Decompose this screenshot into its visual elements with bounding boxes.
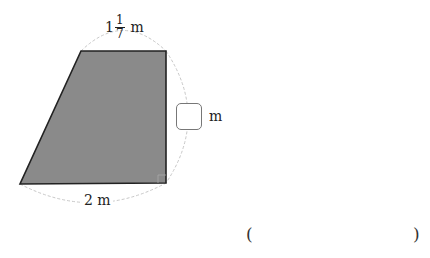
fraction-denominator: 7 [116,28,124,41]
top-length-unit: m [131,20,144,34]
trapezoid-figure: 1 1 7 m 2 m m ( ) [0,0,430,258]
bottom-length-label: 2 m [82,193,113,207]
trapezoid-shape [20,51,166,184]
answer-close-paren: ) [413,226,420,243]
answer-field[interactable] [256,224,406,244]
trapezoid-diagram-svg [0,0,430,258]
fraction-numerator: 1 [115,14,125,28]
top-length-whole: 1 [105,20,114,34]
height-answer-box[interactable] [176,103,202,130]
answer-open-paren: ( [246,226,253,243]
top-length-fraction: 1 7 [115,14,125,40]
top-length-label: 1 1 7 m [105,14,144,40]
height-unit-label: m [209,109,222,123]
